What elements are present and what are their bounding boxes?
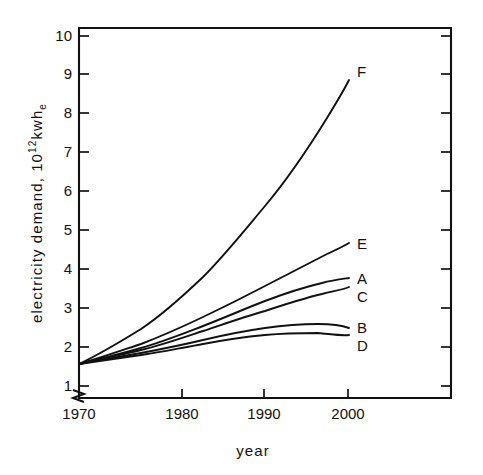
y-tick-label-1: 1 (64, 377, 72, 394)
x-tick-label-1970: 1970 (62, 405, 95, 422)
y-axis-ticks-right (441, 36, 451, 386)
y-axis-ticks (79, 36, 89, 386)
chart-figure: 10 9 8 7 6 5 4 3 2 1 1970 1980 1990 2000… (0, 0, 483, 475)
svg-text:electricity demand, 1012kwhe: electricity demand, 1012kwhe (27, 103, 48, 323)
series-label-A: A (357, 270, 367, 287)
y-tick-label-10: 10 (55, 27, 72, 44)
y-tick-label-5: 5 (64, 221, 72, 238)
y-axis-title-unit: kwh (28, 110, 45, 140)
y-tick-label-4: 4 (64, 260, 72, 277)
x-tick-label-1980: 1980 (165, 405, 198, 422)
series-label-C: C (357, 288, 368, 305)
y-axis-title-lead: electricity demand, 10 (28, 153, 45, 323)
y-axis-title: electricity demand, 1012kwhe (27, 103, 48, 323)
y-axis-title-exponent: 12 (27, 140, 38, 153)
x-tick-label-2000: 2000 (331, 405, 364, 422)
y-axis-title-unit-subscript: e (37, 103, 48, 110)
series-label-D: D (357, 337, 368, 354)
series-label-E: E (357, 235, 367, 252)
y-tick-label-8: 8 (64, 104, 72, 121)
x-axis-ticks (79, 389, 348, 398)
y-tick-label-2: 2 (64, 338, 72, 355)
series-end-labels: F E A C B D (357, 63, 368, 354)
plot-frame (79, 28, 451, 398)
electricity-demand-line-chart: 10 9 8 7 6 5 4 3 2 1 1970 1980 1990 2000… (0, 0, 483, 475)
x-tick-label-1990: 1990 (247, 405, 280, 422)
y-tick-label-3: 3 (64, 299, 72, 316)
x-axis-title: year (236, 442, 270, 459)
curve-C (79, 287, 349, 364)
y-tick-label-7: 7 (64, 143, 72, 160)
x-axis-tick-labels: 1970 1980 1990 2000 (62, 405, 364, 422)
series-curves (79, 80, 349, 364)
series-label-F: F (357, 63, 366, 80)
y-tick-label-6: 6 (64, 182, 72, 199)
y-tick-label-9: 9 (64, 65, 72, 82)
series-label-B: B (357, 319, 367, 336)
y-axis-tick-labels: 10 9 8 7 6 5 4 3 2 1 (55, 27, 72, 394)
curve-E (79, 243, 349, 364)
